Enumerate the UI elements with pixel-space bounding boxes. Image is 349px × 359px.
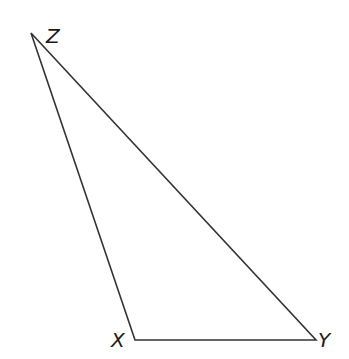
vertex-label-z: Z (45, 24, 61, 48)
vertex-label-x: X (110, 328, 126, 352)
vertex-label-y: Y (318, 328, 332, 352)
triangle-xyz (31, 33, 316, 340)
triangle-diagram: Z X Y (0, 0, 349, 359)
